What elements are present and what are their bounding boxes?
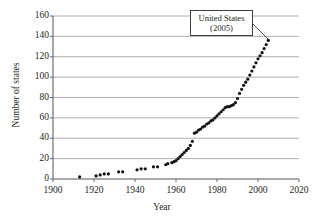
x-tick-label: 2020 xyxy=(279,186,319,196)
x-tick-label: 1960 xyxy=(156,186,196,196)
x-tick-label: 2000 xyxy=(238,186,278,196)
callout-line-2: (2005) xyxy=(210,23,233,33)
united-states-callout: United States (2005) xyxy=(190,10,253,36)
y-axis-title: Number of states xyxy=(11,35,21,155)
x-axis-tick-labels: 1900192019401960198020002020 xyxy=(0,0,324,223)
x-tick-label: 1900 xyxy=(33,186,73,196)
callout-line-1: United States xyxy=(198,13,244,23)
x-tick-label: 1920 xyxy=(74,186,114,196)
x-tick-label: 1980 xyxy=(197,186,237,196)
x-axis-title: Year xyxy=(0,202,324,212)
chart-figure: 020406080100120140160 190019201940196019… xyxy=(0,0,324,223)
x-tick-label: 1940 xyxy=(115,186,155,196)
